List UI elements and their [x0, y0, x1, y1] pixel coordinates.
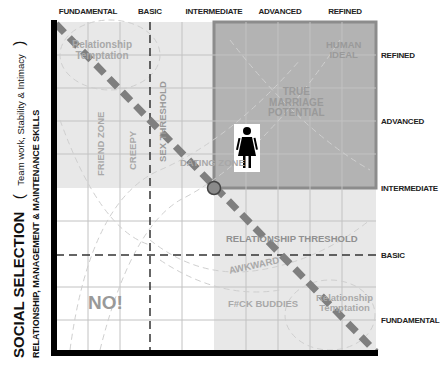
x-axis-bar: [51, 350, 378, 356]
y-title-line1: SOCIAL SELECTION ( Team work, Stability …: [10, 41, 28, 358]
zone-relationship-temptation-bottom: Relationship Temptation: [316, 293, 373, 313]
zone-fck-buddies: F#CK BUDDIES: [228, 299, 298, 309]
zone-friend-zone: FRIEND ZONE: [96, 112, 106, 176]
zone-true-marriage-potential: TRUE MARRIAGE POTENTIAL: [268, 87, 325, 119]
y-tick-basic: BASIC: [381, 251, 405, 260]
y-tick-fundamental: FUNDAMENTAL: [381, 316, 440, 325]
x-tick-refined: REFINED: [328, 7, 362, 16]
y-title-paren-open: (: [10, 194, 27, 199]
zone-human-ideal: HUMAN IDEAL: [326, 40, 361, 60]
zone-dating-zone: DATING ZONE: [180, 158, 245, 168]
zone-label-line: TRUE: [268, 87, 325, 98]
x-tick-basic: BASIC: [138, 7, 162, 16]
y-tick-intermediate: INTERMEDIATE: [381, 184, 438, 193]
y-tick-refined: REFINED: [381, 51, 415, 60]
zone-label-line: Temptation: [316, 303, 373, 313]
y-axis-title: SOCIAL SELECTION ( Team work, Stability …: [0, 0, 56, 366]
zone-no: NO!: [88, 293, 123, 313]
zone-label-line: Temptation: [72, 51, 132, 62]
x-tick-fundamental: FUNDAMENTAL: [59, 7, 118, 16]
zone-label-line: Relationship: [72, 40, 132, 51]
y-title-subtitle: Team work, Stability & Intimacy: [15, 54, 26, 185]
x-tick-advanced: ADVANCED: [258, 7, 301, 16]
zone-sex-threshold: SEX THRESHOLD: [158, 81, 168, 162]
diagram-canvas: [0, 0, 441, 366]
x-tick-intermediate: INTERMEDIATE: [185, 7, 242, 16]
zone-label-line: POTENTIAL: [268, 108, 325, 119]
y-title-main: SOCIAL SELECTION: [10, 212, 27, 358]
zone-relationship-threshold: RELATIONSHIP THRESHOLD: [226, 234, 358, 244]
zone-relationship-temptation-top: Relationship Temptation: [72, 40, 132, 61]
intersection-marker: [208, 182, 221, 195]
y-title-line2: RELATIONSHIP, MANAGEMENT & MAINTENANCE S…: [31, 110, 41, 358]
y-title-paren-close: ): [10, 41, 27, 46]
zone-label-line: IDEAL: [326, 50, 361, 60]
y-tick-advanced: ADVANCED: [381, 117, 424, 126]
zone-creepy: CREEPY: [128, 131, 138, 170]
